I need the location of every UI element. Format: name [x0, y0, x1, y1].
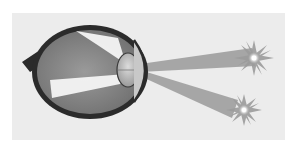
light-source-upper: [234, 40, 274, 76]
eye-diagram: [0, 0, 297, 150]
cornea: [134, 40, 145, 102]
light-ray-upper-source: [140, 48, 255, 72]
light-ray-lower-source: [140, 70, 238, 118]
